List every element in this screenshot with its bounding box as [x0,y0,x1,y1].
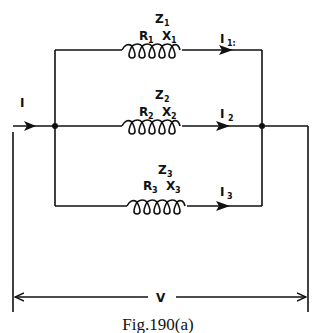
svg-text:2: 2 [171,112,177,121]
svg-text:1: 1 [164,19,170,28]
inductor-3-icon [127,200,185,214]
svg-text:1: 1 [148,36,154,45]
branch-1-current-label: I [220,32,224,46]
voltage-label: V [156,291,166,305]
branch-2: Z 2 R 2 X 2 I 2 [55,88,262,134]
svg-text:3: 3 [152,186,158,195]
branch-3-current-label: I [220,185,224,199]
voltage-dimension: V [15,291,306,305]
svg-text:R: R [139,105,148,119]
svg-text:3: 3 [227,192,233,201]
svg-text:Z: Z [155,88,164,102]
inductor-1-icon [122,44,180,58]
supply-current-label: I [20,96,24,110]
inductor-2-icon [122,120,180,134]
svg-text:3: 3 [175,186,181,195]
svg-text:R: R [139,29,148,43]
svg-text:2: 2 [164,95,170,104]
svg-text:Z: Z [158,163,167,177]
svg-text:1: 1 [171,36,177,45]
svg-text:R: R [143,179,152,193]
svg-text:3: 3 [167,170,173,179]
svg-text:2: 2 [148,112,154,121]
svg-text:2: 2 [228,114,234,123]
parallel-circuit-diagram: I Z 1 R 1 X 1 I 1: Z 2 R 2 X 2 I 2 [0,0,317,333]
branch-1: Z 1 R 1 X 1 I 1: [55,12,262,58]
svg-text:1:: 1: [227,39,236,48]
figure-caption: Fig.190(a) [122,315,193,333]
svg-text:Z: Z [155,12,164,26]
supply-input-wire [13,121,55,131]
branch-2-current-label: I [220,107,224,121]
branch-3: Z 3 R 3 X 3 I 3 [55,163,262,214]
